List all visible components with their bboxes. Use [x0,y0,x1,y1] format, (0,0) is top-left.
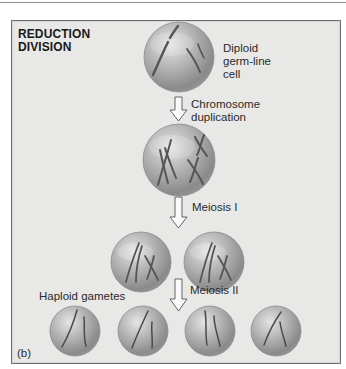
diploid-cell-label: Diploid germ-line cell [223,42,271,81]
meiosis1-cell-right [184,232,244,292]
haploid-gametes-label: Haploid gametes [39,290,125,303]
meiosis-2-label: Meiosis II [190,284,239,297]
gamete-4 [251,306,301,356]
chromosome-duplication-label: Chromosome duplication [191,98,260,124]
down-arrow-icon [170,279,187,311]
gamete-2 [118,306,168,356]
meiosis-1-label: Meiosis I [192,201,237,214]
diploid-cell [144,22,214,92]
meiosis1-cell-left [111,232,171,292]
diagram-art [0,0,346,369]
duplicated-cell [143,124,215,196]
gamete-1 [50,306,100,356]
down-arrow-icon [170,197,187,228]
down-arrow-icon [170,97,187,121]
panel-label: (b) [17,347,31,360]
gamete-3 [185,306,235,356]
